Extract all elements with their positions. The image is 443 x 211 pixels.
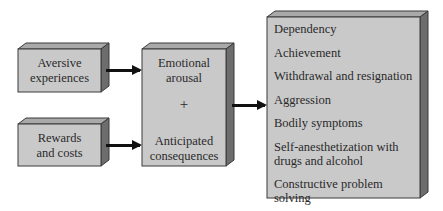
outcome-constructive-problem-solving: Constructive problem solving <box>274 177 420 205</box>
emotional-line1: Emotional <box>142 56 226 71</box>
plus-operator: + <box>142 97 226 112</box>
middle-box-anticipated-consequences: Anticipated consequences <box>142 134 226 164</box>
aversive-line1: Aversive <box>18 56 101 71</box>
arrow-aversive-to-middle <box>106 69 140 72</box>
outcomes-box: Dependency Achievement Withdrawal and re… <box>267 17 420 198</box>
emotional-line2: arousal <box>142 71 226 86</box>
rewards-line2: and costs <box>18 146 101 161</box>
middle-box-emotional-arousal: Emotional arousal <box>142 56 226 86</box>
outcome-aggression: Aggression <box>274 93 420 107</box>
rewards-line1: Rewards <box>18 131 101 146</box>
outcome-dependency: Dependency <box>274 22 420 36</box>
outcome-self-anesthetization-line2: drugs and alcohol <box>274 154 420 168</box>
input-box-aversive-experiences: Aversive experiences <box>18 56 101 86</box>
outcomes-list: Dependency Achievement Withdrawal and re… <box>274 22 420 211</box>
anticipated-line2: consequences <box>142 149 226 164</box>
aversive-line2: experiences <box>18 71 101 86</box>
outcome-bodily-symptoms: Bodily symptoms <box>274 116 420 130</box>
outcome-self-anesthetization-line1: Self-anesthetization with <box>274 140 420 154</box>
outcome-withdrawal: Withdrawal and resignation <box>274 69 420 83</box>
anticipated-line1: Anticipated <box>142 134 226 149</box>
input-box-rewards-and-costs: Rewards and costs <box>18 131 101 161</box>
arrow-middle-to-outcomes <box>232 104 265 107</box>
outcome-achievement: Achievement <box>274 46 420 60</box>
arrow-rewards-to-middle <box>106 144 140 147</box>
